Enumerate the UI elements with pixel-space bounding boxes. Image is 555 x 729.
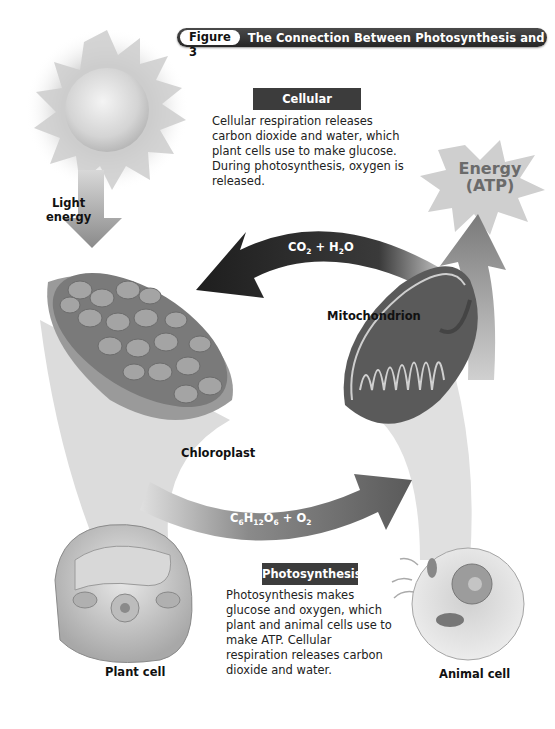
light-energy-label-line2: energy — [46, 210, 91, 224]
cellular-respiration-heading: Cellular respiration — [253, 88, 361, 110]
plant-cell-illustration — [55, 525, 192, 663]
animal-cell-illustration — [392, 548, 524, 660]
formula-plus: + — [279, 511, 297, 525]
mitochondrion-label: Mitochondrion — [327, 309, 421, 323]
sun-icon — [25, 28, 189, 192]
formula-plus: + — [311, 240, 329, 254]
formula-co: CO — [288, 240, 306, 254]
formula-h: H — [329, 240, 339, 254]
glucose-oxygen-arrow — [140, 474, 412, 541]
formula-h: H — [244, 511, 254, 525]
light-energy-label-line1: Light — [46, 196, 91, 210]
energy-label-line2: (ATP) — [450, 177, 530, 194]
formula-o: O — [264, 511, 274, 525]
formula-sub: 12 — [253, 518, 263, 527]
figure-title: The Connection Between Photosynthesis an… — [248, 31, 555, 45]
energy-atp-label: Energy (ATP) — [450, 160, 530, 194]
energy-label-line1: Energy — [450, 160, 530, 177]
photosynthesis-heading: Photosynthesis — [262, 563, 358, 585]
animal-cell-label: Animal cell — [439, 667, 510, 681]
light-energy-label: Light energy — [46, 196, 91, 224]
figure-header-bar: Figure 3 The Connection Between Photosyn… — [177, 28, 547, 47]
cellular-respiration-caption: Cellular respiration releases carbon dio… — [212, 114, 412, 189]
photosynthesis-caption: Photosynthesis makes glucose and oxygen,… — [226, 588, 394, 678]
chloroplast-label: Chloroplast — [181, 446, 255, 460]
formula-o: O — [344, 240, 354, 254]
formula-o2: O — [296, 511, 306, 525]
plant-cell-label: Plant cell — [105, 665, 165, 679]
co2-water-formula: CO2 + H2O — [288, 240, 354, 256]
formula-sub: 2 — [306, 518, 311, 527]
figure-number: Figure 3 — [180, 30, 240, 45]
glucose-oxygen-formula: C6H12O6 + O2 — [230, 511, 311, 527]
